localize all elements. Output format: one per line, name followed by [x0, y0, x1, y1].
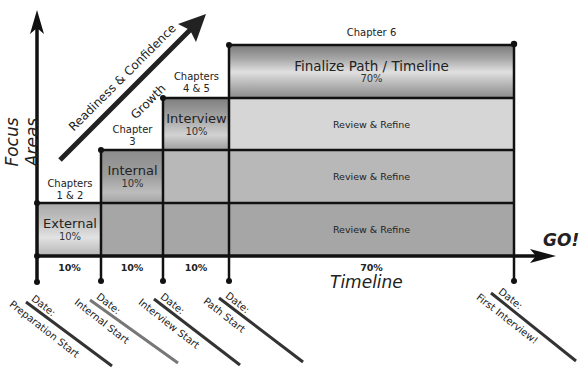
y-axis-label: Focus Areas: [2, 92, 42, 192]
chapter-label-4-5-line2: 4 & 5: [163, 83, 230, 95]
chapter-label-3-line1: Chapter: [101, 124, 164, 136]
chapter-label-1-2-line1: Chapters: [38, 178, 102, 190]
timeline-pct-3: 10%: [163, 262, 229, 273]
go-label: GO!: [543, 230, 579, 250]
chapter-label-3: Chapter 3: [101, 124, 164, 148]
timeline-pct-1: 10%: [38, 262, 101, 273]
chapter-label-1-2-line2: 1 & 2: [38, 190, 102, 202]
timeline-pct-2: 10%: [101, 262, 163, 273]
timeline-pct-4: 70%: [229, 262, 514, 273]
chapter-label-4-5: Chapters 4 & 5: [163, 71, 230, 95]
chapter-label-6: Chapter 6: [229, 27, 514, 39]
chapter-label-3-line2: 3: [101, 136, 164, 148]
chapter-label-1-2: Chapters 1 & 2: [38, 178, 102, 202]
chapter-label-4-5-line1: Chapters: [163, 71, 230, 83]
x-axis-label: Timeline: [330, 272, 403, 292]
